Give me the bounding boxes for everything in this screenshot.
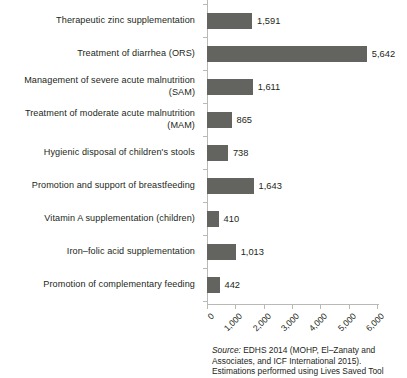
value-axis-tick (235, 305, 236, 309)
category-label: Treatment of diarrhea (ORS) (0, 48, 201, 59)
category-axis-tick (203, 37, 207, 38)
bar-value-label: 865 (237, 115, 253, 125)
category-label: Promotion and support of breastfeeding (0, 180, 201, 191)
bar (207, 178, 254, 194)
bar-row: Iron–folic acid supplementation 1,013 (0, 235, 407, 268)
source-label: Source: (212, 345, 241, 355)
bar-value-label: 1,611 (258, 82, 281, 92)
bar (207, 13, 252, 29)
bar (207, 244, 236, 260)
category-axis-tick (203, 70, 207, 71)
bar-track: 865 (207, 103, 407, 136)
category-label-line: Promotion and support of breastfeeding (0, 180, 195, 191)
category-label: Management of severe acute malnutrition … (0, 75, 201, 97)
bar (207, 211, 219, 227)
category-label-line: Therapeutic zinc supplementation (0, 15, 195, 26)
bar-row: Vitamin A supplementation (children) 410 (0, 202, 407, 235)
value-axis-tick (320, 305, 321, 309)
bar (207, 145, 228, 161)
plot-area: Therapeutic zinc supplementation 1,591 T… (0, 0, 407, 305)
category-label: Iron–folic acid supplementation (0, 246, 201, 257)
category-label: Therapeutic zinc supplementation (0, 15, 201, 26)
category-label-line: Treatment of diarrhea (ORS) (0, 48, 195, 59)
category-label-line: Iron–folic acid supplementation (0, 246, 195, 257)
value-axis-tick-label: 0 (165, 311, 216, 362)
value-axis-tick (349, 305, 350, 309)
bar-row: Promotion and support of breastfeeding 1… (0, 169, 407, 202)
category-label: Treatment of moderate acute malnutrition… (0, 108, 201, 130)
bar-value-label: 1,643 (259, 181, 282, 191)
bar-track: 738 (207, 136, 407, 169)
bar-value-label: 442 (225, 280, 241, 290)
bar-track: 442 (207, 268, 407, 301)
category-label: Promotion of complementary feeding (0, 279, 201, 290)
bar-row: Treatment of diarrhea (ORS) 5,642 (0, 37, 407, 70)
source-line-3: Estimations performed using Lives Saved … (212, 366, 407, 377)
bar-track: 1,591 (207, 4, 407, 37)
bar-rows: Therapeutic zinc supplementation 1,591 T… (0, 4, 407, 301)
bar-value-label: 1,013 (241, 247, 264, 257)
bar-value-label: 5,642 (372, 49, 395, 59)
value-axis-tick (264, 305, 265, 309)
category-label-line: Vitamin A supplementation (children) (0, 213, 195, 224)
bar-row: Therapeutic zinc supplementation 1,591 (0, 4, 407, 37)
bar-track: 1,013 (207, 235, 407, 268)
category-axis-tick (203, 103, 207, 104)
category-axis-tick (203, 169, 207, 170)
category-axis-tick (203, 268, 207, 269)
category-label: Hygienic disposal of children's stools (0, 147, 201, 158)
value-axis-line (207, 304, 379, 305)
bar-row: Management of severe acute malnutrition … (0, 70, 407, 103)
bar-value-label: 410 (224, 214, 240, 224)
bar-track: 1,611 (207, 70, 407, 103)
bar-row: Hygienic disposal of children's stools 7… (0, 136, 407, 169)
category-label-line: (MAM) (0, 120, 195, 131)
category-axis-tick (203, 136, 207, 137)
bar-track: 5,642 (207, 37, 407, 70)
value-axis-tick (207, 305, 208, 309)
source-line-2: Associates, and ICF International 2015). (212, 356, 407, 367)
bar-row: Promotion of complementary feeding 442 (0, 268, 407, 301)
category-axis-tick (203, 4, 207, 5)
category-label-line: (SAM) (0, 87, 195, 98)
bar (207, 112, 232, 128)
bar-chart-figure: Therapeutic zinc supplementation 1,591 T… (0, 0, 407, 378)
category-axis-tick (203, 202, 207, 203)
value-axis-tick (292, 305, 293, 309)
bar-value-label: 1,591 (257, 16, 280, 26)
bar-value-label: 738 (233, 148, 249, 158)
category-axis-tick (203, 235, 207, 236)
category-label-line: Hygienic disposal of children's stools (0, 147, 195, 158)
bar (207, 46, 367, 62)
bar (207, 79, 253, 95)
category-axis-tick (203, 301, 207, 302)
value-axis-tick (377, 305, 378, 309)
bar-track: 1,643 (207, 169, 407, 202)
category-label-line: Treatment of moderate acute malnutrition (0, 108, 195, 119)
bar-row: Treatment of moderate acute malnutrition… (0, 103, 407, 136)
bar (207, 277, 220, 293)
source-line-1: EDHS 2014 (MOHP, El–Zanaty and (243, 345, 375, 355)
source-note: Source: EDHS 2014 (MOHP, El–Zanaty and A… (212, 345, 407, 377)
bar-track: 410 (207, 202, 407, 235)
category-label-line: Management of severe acute malnutrition (0, 75, 195, 86)
category-label-line: Promotion of complementary feeding (0, 279, 195, 290)
category-label: Vitamin A supplementation (children) (0, 213, 201, 224)
